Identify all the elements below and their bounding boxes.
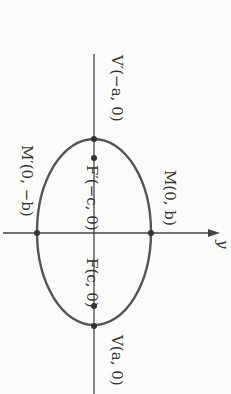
vertex-v-point <box>91 323 97 329</box>
covertex-m-point <box>148 230 154 236</box>
label-m: M(0, b) <box>161 170 179 226</box>
label-m-prime: M′(0, −b) <box>18 145 36 217</box>
label-v-prime: V′(−a, 0) <box>108 54 126 122</box>
covertex-m-prime-point <box>34 230 40 236</box>
focus-f-prime-point <box>91 155 97 161</box>
vertex-v-prime-point <box>91 136 97 142</box>
ellipse-diagram: V′(−a, 0) V(a, 0) F′(−c, 0) F(c, 0) M(0,… <box>0 0 231 394</box>
label-y-axis: y <box>214 239 231 249</box>
label-f-prime: F′(−c, 0) <box>83 165 101 231</box>
y-axis-arrow-icon <box>208 229 220 237</box>
label-v: V(a, 0) <box>108 334 126 386</box>
label-f: F(c, 0) <box>83 258 101 308</box>
